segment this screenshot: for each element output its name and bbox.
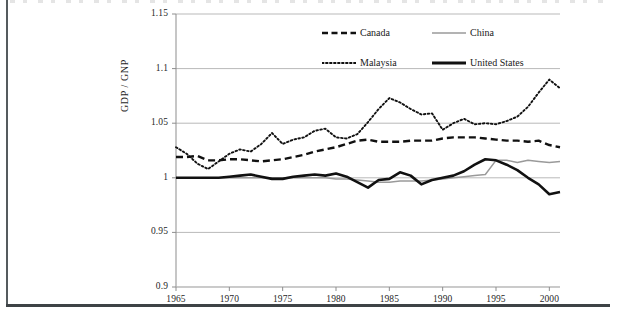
x-axis-ticks: [176, 287, 549, 291]
axis-lines: [176, 14, 560, 287]
x-tick-label-1995: 1995: [471, 294, 521, 304]
legend-label: Canada: [360, 28, 390, 38]
y-axis-ticks: [172, 14, 176, 287]
x-tick-label-2000: 2000: [524, 294, 574, 304]
y-tick-label-1.05: 1.05: [124, 117, 168, 127]
legend-label: Malaysia: [360, 58, 397, 68]
y-tick-label-1.15: 1.15: [124, 8, 168, 18]
y-tick-label-1: 1: [124, 172, 168, 182]
x-tick-label-1970: 1970: [204, 294, 254, 304]
y-tick-label-1.1: 1.1: [124, 63, 168, 73]
line-chart: [0, 0, 624, 317]
legend-entry-china[interactable]: China: [432, 28, 494, 38]
legend-entry-united-states[interactable]: United States: [432, 58, 524, 68]
legend-entry-canada[interactable]: Canada: [322, 28, 390, 38]
legend-swatch-canada: [322, 28, 356, 38]
y-tick-label-0.95: 0.95: [124, 226, 168, 236]
data-series: [176, 80, 560, 195]
legend-label: United States: [470, 58, 524, 68]
legend-swatch-malaysia: [322, 58, 356, 68]
figure-root: GDP / GNP 0.90.9511.051.11.15 1965197019…: [0, 0, 624, 317]
x-tick-label-1990: 1990: [418, 294, 468, 304]
x-tick-label-1965: 1965: [151, 294, 201, 304]
series-line-canada: [176, 137, 560, 161]
x-tick-label-1975: 1975: [258, 294, 308, 304]
gridlines: [176, 14, 560, 287]
x-tick-label-1985: 1985: [364, 294, 414, 304]
legend-swatch-china: [432, 28, 466, 38]
legend-swatch-united-states: [432, 58, 466, 68]
series-line-united-states: [176, 159, 560, 194]
y-tick-label-0.9: 0.9: [124, 281, 168, 291]
legend-label: China: [470, 28, 494, 38]
series-line-malaysia: [176, 80, 560, 170]
legend-entry-malaysia[interactable]: Malaysia: [322, 58, 397, 68]
x-tick-label-1980: 1980: [311, 294, 361, 304]
